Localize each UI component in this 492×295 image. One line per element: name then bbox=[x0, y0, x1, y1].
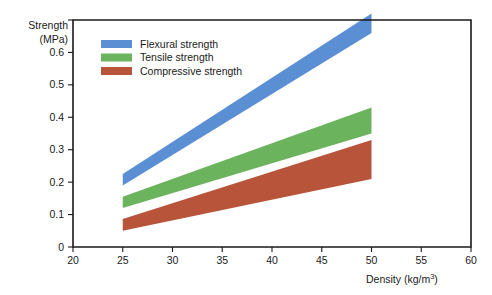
y-axis-title-line2: (MPa) bbox=[39, 33, 68, 45]
x-tick-label-4: 40 bbox=[266, 254, 278, 266]
x-tick-label-5: 45 bbox=[316, 254, 328, 266]
x-tick-label-1: 25 bbox=[117, 254, 129, 266]
legend-swatch-2 bbox=[101, 67, 132, 75]
strength-vs-density-chart: 00.10.20.30.40.50.6 202530354045505560 S… bbox=[0, 0, 492, 295]
x-axis-title: Density (kg/m3) bbox=[366, 272, 438, 285]
chart-figure: 00.10.20.30.40.50.6 202530354045505560 S… bbox=[0, 0, 492, 295]
x-tick-label-7: 55 bbox=[415, 254, 427, 266]
x-tick-label-8: 60 bbox=[465, 254, 477, 266]
x-tick-label-3: 35 bbox=[216, 254, 228, 266]
y-axis-title-line1: Strength bbox=[28, 19, 68, 31]
x-axis-title-main: Density (kg/m bbox=[366, 273, 430, 285]
legend-label-2: Compressive strength bbox=[140, 65, 242, 77]
svg-text:Density (kg/m3): Density (kg/m3) bbox=[366, 272, 438, 285]
legend-swatch-0 bbox=[101, 40, 132, 48]
y-tick-label-3: 0.3 bbox=[49, 143, 64, 155]
y-tick-label-6: 0.6 bbox=[49, 46, 64, 58]
x-tick-label-2: 30 bbox=[167, 254, 179, 266]
y-tick-label-4: 0.4 bbox=[49, 111, 64, 123]
x-tick-label-0: 20 bbox=[67, 254, 79, 266]
x-axis-title-tail: ) bbox=[434, 273, 438, 285]
legend-label-0: Flexural strength bbox=[140, 38, 218, 50]
y-tick-label-0: 0 bbox=[58, 241, 64, 253]
y-tick-label-2: 0.2 bbox=[49, 176, 64, 188]
y-tick-label-1: 0.1 bbox=[49, 208, 64, 220]
y-tick-label-5: 0.5 bbox=[49, 78, 64, 90]
legend-swatch-1 bbox=[101, 54, 132, 62]
legend-label-1: Tensile strength bbox=[140, 51, 214, 63]
x-tick-label-6: 50 bbox=[366, 254, 378, 266]
